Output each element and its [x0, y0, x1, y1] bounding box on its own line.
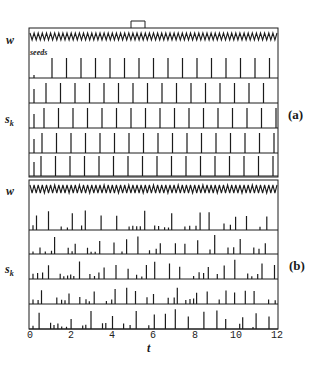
sk-spike-train	[33, 235, 265, 254]
sk-spike-train	[33, 309, 269, 329]
w-trace	[30, 33, 277, 40]
panel-b-w-label: w	[6, 184, 14, 199]
sk-spike-train	[33, 211, 267, 230]
panel-a-sk-label: sk	[5, 112, 14, 128]
figure: w seeds sk (a) w sk (b) 0 2 4 6 8 10 12 …	[0, 0, 319, 365]
sk-spike-train	[33, 260, 275, 279]
panel-b-sk-label: sk	[5, 262, 14, 278]
panel-b-tag: (b)	[289, 258, 305, 274]
sk-spike-train	[34, 108, 276, 128]
x-tick-12: 12	[271, 330, 283, 341]
plot-canvas	[0, 0, 319, 365]
x-axis-label: t	[147, 341, 150, 356]
panel-a-seeds-label: seeds	[30, 48, 47, 57]
panel-a-w-label: w	[6, 33, 14, 48]
stimulus-marker	[131, 21, 145, 28]
x-tick-2: 2	[68, 330, 74, 341]
panel-a-tag: (a)	[288, 107, 303, 123]
x-tick-6: 6	[150, 330, 156, 341]
x-tick-4: 4	[109, 330, 115, 341]
sk-spike-train	[34, 156, 273, 176]
sk-spike-train	[34, 58, 270, 78]
sk-spike-train	[33, 288, 275, 304]
x-tick-10: 10	[230, 330, 242, 341]
x-tick-8: 8	[192, 330, 198, 341]
sk-spike-train	[34, 133, 274, 153]
x-tick-0: 0	[27, 330, 33, 341]
sk-spike-train	[34, 83, 264, 103]
w-trace	[30, 185, 277, 193]
